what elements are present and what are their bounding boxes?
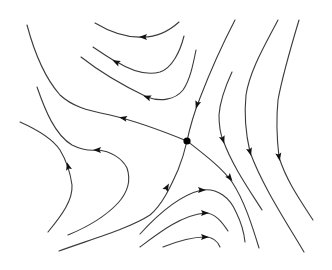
saddle-point: [183, 137, 190, 144]
phase-portrait-diagram: [0, 0, 332, 270]
